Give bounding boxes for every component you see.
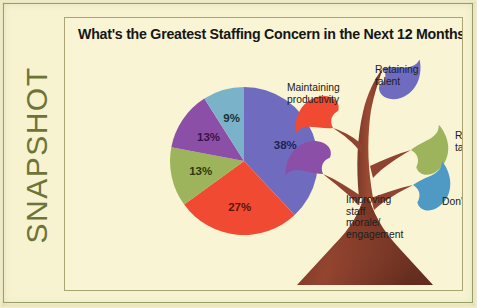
pie-slice-label: 13% [197,131,220,143]
chart-panel: What's the Greatest Staffing Concern in … [64,17,463,291]
snapshot-card: SNAPSHOT What's the Greatest Staffing Co… [0,0,477,308]
tree-label-dont-know: Don't know [442,196,463,208]
pie-slice-label: 9% [223,112,240,124]
snapshot-rail-label: SNAPSHOT [20,30,54,280]
tree-label-retaining-talent: Retaining talent [375,64,447,87]
tree-label-recruiting-talent: Recruiting talent [455,130,463,153]
pie-slice-label: 27% [228,201,251,213]
recruiting-talent-leaf [406,124,455,178]
improving-morale-leaf [282,133,334,189]
tree-label-improving-morale: Improving staff morale/ engagement [346,194,414,240]
tree-label-maintaining-productivity: Maintaining productivity [287,82,367,105]
pie-slice-label: 13% [189,165,212,177]
tree-branch-right [370,150,411,178]
snapshot-rail: SNAPSHOT [6,18,62,294]
